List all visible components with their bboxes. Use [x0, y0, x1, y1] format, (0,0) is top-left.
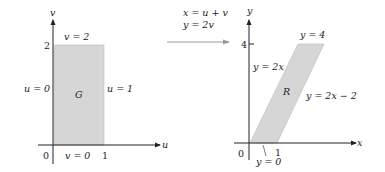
- tick-v-2: 2: [44, 40, 50, 51]
- region-r-label: R: [282, 86, 290, 97]
- transformation-mapping: x = u + v y = 2v: [167, 7, 229, 42]
- edge-top-label: y = 4: [299, 29, 325, 40]
- right-panel-xy-plane: x y 0 1 4 y = 4 y = 0 y = 2x y = 2x − 2 …: [234, 5, 363, 167]
- origin-label: 0: [238, 148, 244, 159]
- edge-right-label: y = 2x − 2: [305, 90, 357, 101]
- region-g-label: G: [75, 89, 83, 100]
- edge-bottom-label: v = 0: [65, 150, 90, 161]
- tick-u-1: 1: [102, 150, 108, 161]
- edge-bottom-label: y = 0: [255, 156, 281, 167]
- origin-label: 0: [43, 150, 49, 161]
- y-axis-label: y: [246, 5, 253, 16]
- transformation-diagram: u v 0 1 2 v = 2 v = 0 u = 0 u = 1 G x = …: [0, 0, 385, 172]
- left-panel-uv-plane: u v 0 1 2 v = 2 v = 0 u = 0 u = 1 G: [24, 7, 168, 164]
- edge-left-label: u = 0: [24, 83, 50, 94]
- tick-y-4: 4: [241, 39, 247, 50]
- v-axis-label: v: [50, 7, 56, 18]
- edge-right-label: u = 1: [107, 83, 133, 94]
- x-axis-label: x: [357, 137, 363, 148]
- transform-eq-y: y = 2v: [182, 19, 214, 30]
- y0-leader-line: [263, 145, 266, 156]
- edge-left-label: y = 2x: [252, 61, 284, 72]
- u-axis-label: u: [162, 139, 168, 150]
- transform-eq-x: x = u + v: [183, 7, 228, 18]
- edge-top-label: v = 2: [64, 31, 89, 42]
